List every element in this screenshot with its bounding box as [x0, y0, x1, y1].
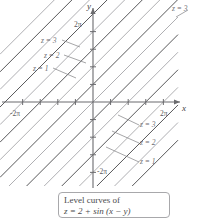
contour-label-upper-z1: z = 1 [33, 65, 48, 73]
contour-label-upper-z3: z = 3 [41, 37, 56, 45]
plot-canvas [0, 0, 198, 220]
caption-line-2: z = 2 + sin (x − y) [64, 206, 169, 217]
caption-line-1: Level curves of [64, 195, 169, 206]
contour-line [0, 0, 142, 142]
contour-line [0, 0, 125, 125]
leader-line [112, 131, 139, 143]
leader-line [62, 40, 80, 47]
contour-line [115, 123, 178, 186]
x-axis-label: x [182, 104, 186, 113]
contour-line [62, 70, 178, 186]
x-axis-arrow [174, 99, 180, 104]
contour-label-top-right-z3: z = 3 [172, 5, 187, 13]
y-axis-arrow [90, 8, 95, 14]
contour-line [0, 0, 177, 177]
contour-line [0, 0, 54, 54]
contour-label-lower-z2: z = 2 [140, 139, 155, 147]
contour-line [0, 0, 72, 72]
contour-label-upper-z2: z = 2 [44, 52, 59, 60]
leader-line [118, 115, 139, 125]
x-tick-label-pos-2pi: 2π [160, 110, 168, 118]
x-tick-label-neg-2pi: -2π [10, 110, 20, 118]
contour-line [44, 52, 178, 186]
contour-label-lower-z1: z = 1 [140, 158, 155, 166]
y-tick-label-neg-2pi: -2π [97, 168, 107, 176]
level-curves-figure: x y -2π 2π 2π -2π z = 3 z = 2 z = 1 z = … [0, 0, 198, 220]
caption-box: Level curves of z = 2 + sin (x − y) [58, 192, 170, 218]
y-tick-label-pos-2pi: 2π [74, 21, 82, 29]
y-axis-label: y [87, 2, 91, 11]
contour-label-lower-z3: z = 3 [140, 121, 155, 129]
